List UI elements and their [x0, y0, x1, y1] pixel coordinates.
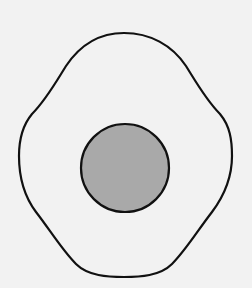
cell-diagram — [0, 0, 252, 288]
diagram-canvas — [0, 0, 252, 288]
inner-nucleus-circle — [81, 124, 169, 212]
